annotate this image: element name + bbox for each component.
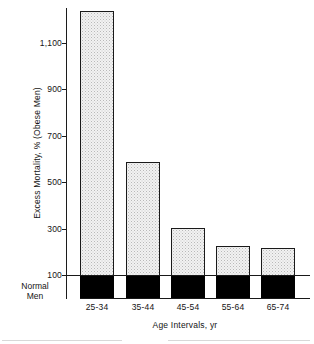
x-axis-title: Age Intervals, yr xyxy=(60,320,310,330)
x-axis-line xyxy=(80,298,310,299)
bar-upper-25-34 xyxy=(80,11,114,276)
y-tick-mark-1100 xyxy=(62,43,67,44)
y-tick-label-100: 100 xyxy=(20,270,62,280)
bar-lower-normal-65-74 xyxy=(261,276,295,298)
y-tick-label-1100: 1,100 xyxy=(20,38,62,48)
x-tick-label-55-64: 55-64 xyxy=(211,302,255,312)
y-tick-label-700: 700 xyxy=(20,131,62,141)
bar-lower-normal-35-44 xyxy=(126,276,160,298)
bar-upper-45-54 xyxy=(171,228,205,276)
x-tick-label-65-74: 65-74 xyxy=(256,302,300,312)
scan-artifact-right xyxy=(168,340,310,341)
x-tick-label-45-54: 45-54 xyxy=(166,302,210,312)
y-tick-label-300: 300 xyxy=(20,224,62,234)
y-tick-mark-300 xyxy=(62,229,67,230)
normal-men-label-line2: Men xyxy=(6,291,64,301)
y-tick-mark-700 xyxy=(62,136,67,137)
chart-figure: Excess Mortality, % (Obese Men) 1,100 90… xyxy=(0,0,314,344)
y-tick-mark-900 xyxy=(62,89,67,90)
y-axis-line xyxy=(66,8,67,299)
bar-lower-normal-55-64 xyxy=(216,276,250,298)
bar-upper-35-44 xyxy=(126,162,160,276)
bar-lower-normal-45-54 xyxy=(171,276,205,298)
normal-men-annotation: Normal Men xyxy=(6,281,64,301)
scan-artifact-left xyxy=(2,340,122,341)
bar-lower-normal-25-34 xyxy=(80,276,114,298)
x-tick-label-35-44: 35-44 xyxy=(121,302,165,312)
y-tick-label-500: 500 xyxy=(20,177,62,187)
normal-men-label-line1: Normal xyxy=(6,281,64,291)
x-tick-label-25-34: 25-34 xyxy=(75,302,119,312)
y-tick-mark-500 xyxy=(62,182,67,183)
y-tick-label-900: 900 xyxy=(20,84,62,94)
bar-upper-55-64 xyxy=(216,246,250,276)
bar-upper-65-74 xyxy=(261,248,295,276)
